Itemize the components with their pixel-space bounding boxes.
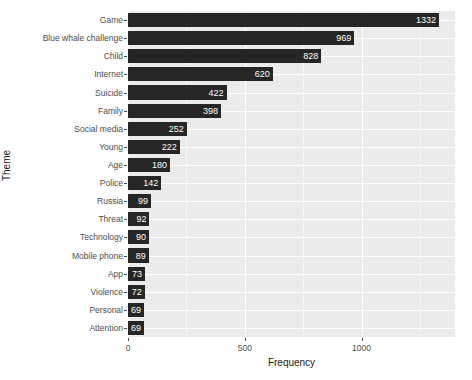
y-axis-tick-label: Technology bbox=[80, 232, 123, 242]
y-axis-tick-mark bbox=[124, 328, 127, 329]
y-axis-tick-mark bbox=[124, 310, 127, 311]
bar-value-label: 398 bbox=[203, 106, 218, 116]
y-axis-tick-mark bbox=[124, 165, 127, 166]
gridline-horizontal bbox=[128, 165, 455, 166]
x-axis-tick-label: 500 bbox=[238, 343, 252, 353]
y-axis-tick-labels: GameBlue whale challengeChildInternetSui… bbox=[0, 11, 123, 337]
y-axis-tick-label: Attention bbox=[89, 323, 123, 333]
bar-value-label: 422 bbox=[209, 88, 224, 98]
y-axis-tick-mark bbox=[124, 237, 127, 238]
y-axis-tick-mark bbox=[124, 20, 127, 21]
y-axis-tick-label: Young bbox=[99, 142, 123, 152]
y-axis-tick-label: Internet bbox=[94, 69, 123, 79]
y-axis-tick-label: Suicide bbox=[95, 88, 123, 98]
y-axis-tick-label: Social media bbox=[74, 124, 123, 134]
x-axis-tick-mark bbox=[245, 338, 246, 341]
x-axis-title: Frequency bbox=[128, 357, 455, 368]
y-axis-tick-label: Blue whale challenge bbox=[43, 33, 123, 43]
bar-value-label: 92 bbox=[136, 214, 146, 224]
y-axis-title: Theme bbox=[1, 136, 12, 196]
gridline-horizontal bbox=[128, 219, 455, 220]
y-axis-tick-mark bbox=[124, 256, 127, 257]
gridline-horizontal bbox=[128, 256, 455, 257]
bar-value-label: 69 bbox=[131, 323, 141, 333]
y-axis-tick-mark bbox=[124, 147, 127, 148]
y-axis-tick-mark bbox=[124, 38, 127, 39]
y-axis-tick-label: Police bbox=[100, 178, 123, 188]
bar-value-label: 142 bbox=[143, 178, 158, 188]
bar-value-label: 89 bbox=[136, 251, 146, 261]
gridline-minor-vertical bbox=[420, 11, 421, 337]
y-axis-tick-mark bbox=[124, 201, 127, 202]
bar-value-label: 969 bbox=[336, 33, 351, 43]
y-axis-tick-mark bbox=[124, 56, 127, 57]
y-axis-tick-label: Personal bbox=[89, 305, 123, 315]
bar-value-label: 69 bbox=[131, 305, 141, 315]
gridline-horizontal bbox=[128, 292, 455, 293]
bar-value-label: 90 bbox=[136, 232, 146, 242]
y-axis-tick-mark bbox=[124, 129, 127, 130]
y-axis-tick-mark bbox=[124, 74, 127, 75]
bar-value-label: 1332 bbox=[416, 15, 436, 25]
gridline-horizontal bbox=[128, 183, 455, 184]
bar-value-label: 72 bbox=[132, 287, 142, 297]
y-axis-tick-mark bbox=[124, 219, 127, 220]
bar bbox=[128, 31, 354, 45]
gridline-horizontal bbox=[128, 201, 455, 202]
bar bbox=[128, 49, 321, 63]
y-axis-tick-label: Child bbox=[104, 51, 123, 61]
y-axis-tick-mark bbox=[124, 183, 127, 184]
bar-value-label: 252 bbox=[169, 124, 184, 134]
bar-value-label: 73 bbox=[132, 269, 142, 279]
y-axis-tick-mark bbox=[124, 292, 127, 293]
x-axis-tick-label: 0 bbox=[126, 343, 131, 353]
y-axis-tick-label: Violence bbox=[91, 287, 123, 297]
y-axis-tick-label: Mobile phone bbox=[72, 251, 123, 261]
y-axis-tick-mark bbox=[124, 111, 127, 112]
bar-value-label: 620 bbox=[255, 69, 270, 79]
x-axis-tick-mark bbox=[362, 338, 363, 341]
bar-value-label: 828 bbox=[303, 51, 318, 61]
x-axis-tick-label: 1000 bbox=[352, 343, 371, 353]
y-axis-tick-label: Threat bbox=[98, 214, 123, 224]
bar-value-label: 99 bbox=[138, 196, 148, 206]
gridline-horizontal bbox=[128, 237, 455, 238]
plot-panel: 1332969828620422398252222180142999290897… bbox=[128, 11, 455, 337]
bar bbox=[128, 67, 273, 81]
y-axis-tick-mark bbox=[124, 274, 127, 275]
y-axis-tick-label: Family bbox=[98, 106, 123, 116]
y-axis-tick-label: Age bbox=[108, 160, 123, 170]
gridline-horizontal bbox=[128, 274, 455, 275]
gridline-major-vertical bbox=[362, 11, 363, 337]
bar-value-label: 222 bbox=[162, 142, 177, 152]
y-axis-tick-mark bbox=[124, 93, 127, 94]
x-axis-tick-mark bbox=[128, 338, 129, 341]
gridline-horizontal bbox=[128, 328, 455, 329]
bar bbox=[128, 13, 439, 27]
bar-chart: 1332969828620422398252222180142999290897… bbox=[0, 0, 472, 380]
y-axis-tick-label: App bbox=[108, 269, 123, 279]
y-axis-tick-label: Game bbox=[100, 15, 123, 25]
gridline-horizontal bbox=[128, 310, 455, 311]
bar-value-label: 180 bbox=[152, 160, 167, 170]
y-axis-tick-label: Russia bbox=[97, 196, 123, 206]
